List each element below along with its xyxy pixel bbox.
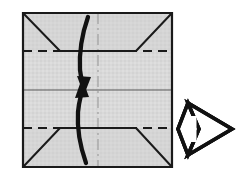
origami-illustration xyxy=(0,0,245,184)
origami-diagram: Origami fold diagram step Square sheet o… xyxy=(0,0,245,184)
paper-group xyxy=(23,13,172,167)
